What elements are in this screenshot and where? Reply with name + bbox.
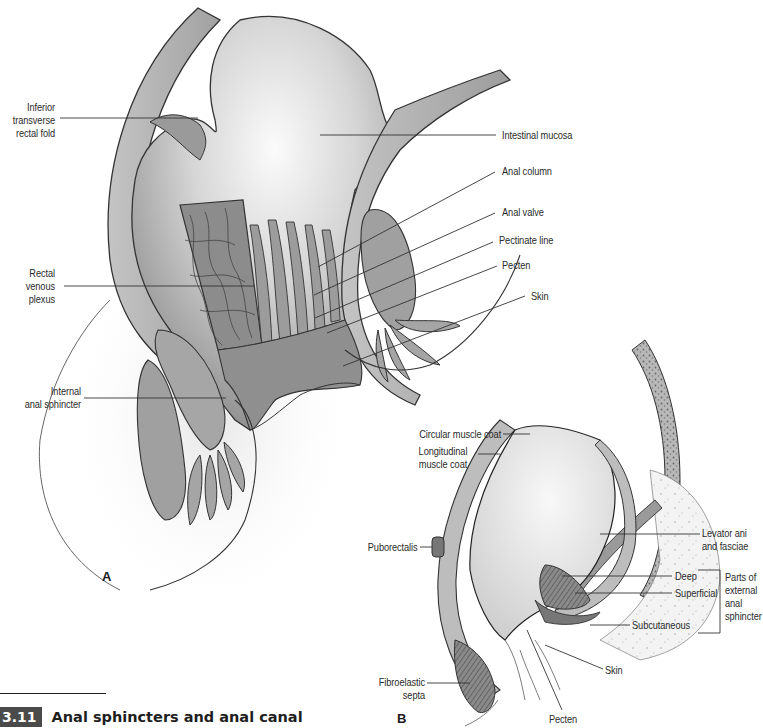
label-subcutaneous: Subcutaneous (632, 619, 690, 632)
label-rectal-venous-plexus: Rectal venous plexus (2, 267, 55, 306)
label-skin-b: Skin (605, 664, 623, 677)
label-pecten-a: Pecten (502, 259, 530, 272)
panel-a-letter: A (102, 569, 111, 584)
label-inferior-transverse-rectal-fold: Inferior transverse rectal fold (0, 101, 55, 140)
figure-number-badge: 3.11 (0, 707, 42, 727)
label-fibroelastic-septa: Fibroelastic septa (363, 676, 425, 702)
label-pectinate-line: Pectinate line (499, 234, 553, 247)
label-external-anal-sphincter-group: Parts of external anal sphincter (725, 571, 762, 623)
label-intestinal-mucosa: Intestinal mucosa (502, 129, 572, 142)
label-anal-valve: Anal valve (502, 206, 544, 219)
label-anal-column: Anal column (502, 165, 552, 178)
label-skin-a: Skin (531, 290, 549, 303)
caption-rule (0, 693, 106, 694)
label-superficial: Superficial (675, 587, 717, 600)
figure-title: Anal sphincters and anal canal (52, 709, 303, 725)
label-puborectalis: Puborectalis (368, 541, 418, 554)
anatomy-figure: Inferior transverse rectal fold Intestin… (0, 0, 763, 728)
label-deep: Deep (675, 570, 697, 583)
figure-caption: 3.11 Anal sphincters and anal canal (0, 707, 303, 727)
label-pecten-b: Pecten (543, 713, 583, 726)
label-longitudinal-muscle-coat: Longitudinal muscle coat (414, 445, 472, 471)
panel-b-letter: B (397, 711, 406, 726)
label-internal-anal-sphincter: Internal anal sphincter (2, 385, 81, 411)
label-circular-muscle-coat: Circular muscle coat (419, 428, 501, 441)
label-levator-ani: Levator ani and fasciae (702, 527, 748, 553)
panel-b-drawing (432, 340, 720, 726)
